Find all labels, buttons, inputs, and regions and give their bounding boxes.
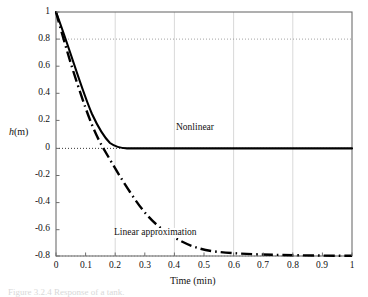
figure-container: 1 0.8 0.6 0.4 0.2 0 -0.2 -0.4 -0.6 -0.8 …: [0, 0, 368, 297]
annotation-nonlinear: Nonlinear: [175, 123, 215, 133]
y-tick-label: 1: [22, 7, 50, 17]
y-tick-label: 0.6: [22, 61, 50, 71]
x-axis-title: Time (min): [170, 276, 215, 286]
y-tick-label: -0.4: [18, 197, 50, 207]
x-tick-label: 0.9: [310, 261, 334, 271]
x-tick-label: 0.3: [133, 261, 157, 271]
y-tick-label: 0: [22, 143, 50, 153]
y-tick-label: -0.8: [18, 251, 50, 261]
y-tick-label: 0.8: [22, 34, 50, 44]
y-axis-title: h(m): [9, 127, 28, 137]
annotation-linear-approximation: Linear approximation: [113, 228, 198, 238]
y-tick-label: -0.6: [18, 224, 50, 234]
figure-caption: Figure 3.2.4 Response of a tank.: [8, 288, 360, 297]
series-linear-approximation: [56, 12, 352, 256]
x-tick-label: 0.5: [192, 261, 216, 271]
plot-frame: [56, 12, 352, 256]
x-tick-label: 0: [46, 261, 66, 271]
x-tick-label: 1: [344, 261, 360, 271]
x-tick-label: 0.6: [222, 261, 246, 271]
y-tick-label: 0.4: [22, 88, 50, 98]
y-tick-label: -0.2: [18, 170, 50, 180]
x-tick-label: 0.4: [162, 261, 186, 271]
x-tick-label: 0.7: [251, 261, 275, 271]
y-tick-label: 0.2: [22, 115, 50, 125]
x-tick-label: 0.1: [74, 261, 98, 271]
chart-plot-area: [0, 0, 368, 297]
x-tick-label: 0.2: [103, 261, 127, 271]
vertical-gridlines: [115, 12, 293, 256]
x-tick-label: 0.8: [281, 261, 305, 271]
y-axis-title-unit: (m): [14, 126, 28, 137]
